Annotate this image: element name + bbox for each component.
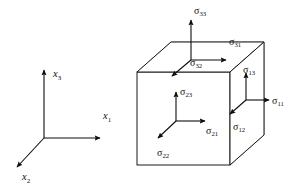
sigma-33-label: σ33 <box>194 5 207 17</box>
stress-tensor-figure: x3 x1 x2 σ33 σ31 σ32 <box>0 0 303 188</box>
axis-label-x2: x2 <box>21 171 31 185</box>
axis-x2-arrow <box>17 138 44 167</box>
axis-label-x3: x3 <box>52 68 62 82</box>
sigma-11-label: σ11 <box>272 95 284 107</box>
sigma-31-label: σ31 <box>229 36 241 48</box>
axis-label-x1: x1 <box>102 110 112 124</box>
coordinate-triad: x3 x1 x2 <box>17 68 112 185</box>
stress-cube: σ33 σ31 σ32 σ23 σ21 σ22 σ13 σ11 σ12 <box>137 5 284 165</box>
figure-canvas: x3 x1 x2 σ33 σ31 σ32 <box>0 0 303 188</box>
